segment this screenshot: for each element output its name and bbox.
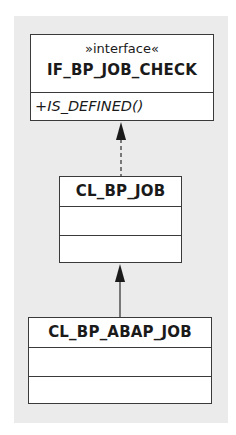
arrowhead-icon xyxy=(115,264,125,282)
arrowhead-icon xyxy=(116,122,126,140)
realization-arrow xyxy=(116,122,126,176)
inheritance-arrow xyxy=(115,264,125,317)
relations-layer xyxy=(0,0,236,435)
